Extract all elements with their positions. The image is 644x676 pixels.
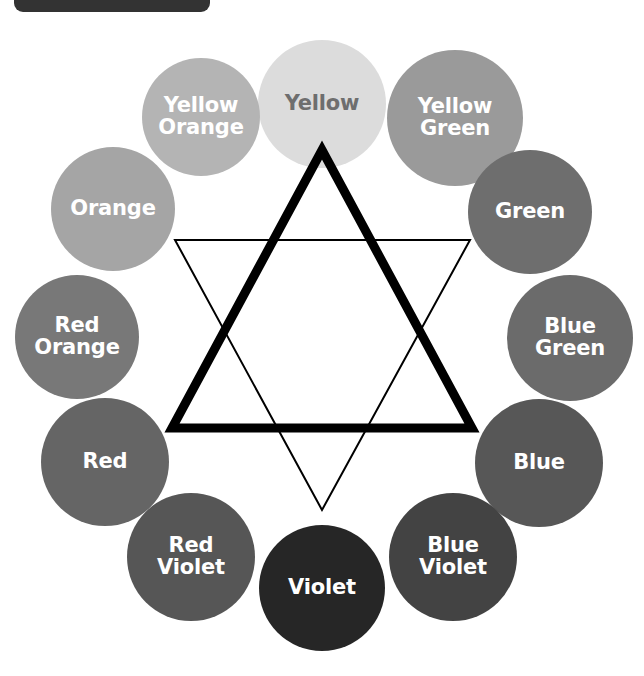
color-wheel-diagram: YellowYellow GreenGreenBlue GreenBlueBlu… bbox=[0, 0, 644, 676]
swatch-label: Yellow Green bbox=[414, 96, 497, 140]
swatch-ring: YellowYellow GreenGreenBlue GreenBlueBlu… bbox=[0, 0, 644, 676]
swatch-label: Orange bbox=[66, 198, 159, 220]
swatch-violet[interactable]: Violet bbox=[259, 525, 385, 651]
swatch-red-orange[interactable]: Red Orange bbox=[15, 275, 139, 399]
swatch-label: Blue bbox=[509, 452, 569, 474]
swatch-label: Blue Violet bbox=[415, 535, 491, 579]
swatch-blue-violet[interactable]: Blue Violet bbox=[389, 493, 517, 621]
swatch-label: Yellow Orange bbox=[154, 95, 247, 139]
swatch-label: Blue Green bbox=[531, 316, 609, 360]
swatch-green[interactable]: Green bbox=[468, 150, 592, 274]
swatch-orange[interactable]: Orange bbox=[51, 147, 175, 271]
swatch-label: Yellow bbox=[281, 93, 364, 115]
swatch-label: Red Orange bbox=[30, 315, 123, 359]
swatch-label: Red bbox=[79, 451, 132, 473]
swatch-label: Red Violet bbox=[153, 535, 229, 579]
swatch-label: Violet bbox=[284, 577, 360, 599]
swatch-red[interactable]: Red bbox=[41, 398, 169, 526]
swatch-yellow[interactable]: Yellow bbox=[258, 40, 386, 168]
swatch-red-violet[interactable]: Red Violet bbox=[127, 493, 255, 621]
swatch-blue-green[interactable]: Blue Green bbox=[507, 275, 633, 401]
swatch-yellow-orange[interactable]: Yellow Orange bbox=[142, 58, 260, 176]
swatch-label: Green bbox=[491, 201, 569, 223]
